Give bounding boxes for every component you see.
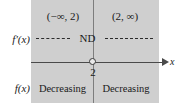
function-behavior-right: Decreasing [95, 81, 157, 96]
derivative-sign-dashes-right [105, 38, 153, 39]
function-behavior-left: Decreasing [33, 81, 92, 96]
x-axis-label: x [170, 55, 174, 68]
derivative-sign-dashes-left [36, 38, 70, 39]
x-axis-line [31, 62, 164, 63]
sign-chart-figure: (−∞, 2) (2, ∞) f′(x) ND x 2 f(x) Decreas… [0, 0, 180, 103]
function-row-label: f(x) [2, 81, 30, 95]
interval-label-left: (−∞, 2) [33, 8, 93, 24]
derivative-undefined-label: ND [70, 31, 105, 45]
open-circle-icon [89, 58, 96, 65]
derivative-row-label: f′(x) [2, 32, 30, 46]
x-axis-arrow-icon [162, 58, 169, 66]
interval-label-right: (2, ∞) [94, 8, 156, 24]
critical-value-label: 2 [83, 65, 103, 79]
